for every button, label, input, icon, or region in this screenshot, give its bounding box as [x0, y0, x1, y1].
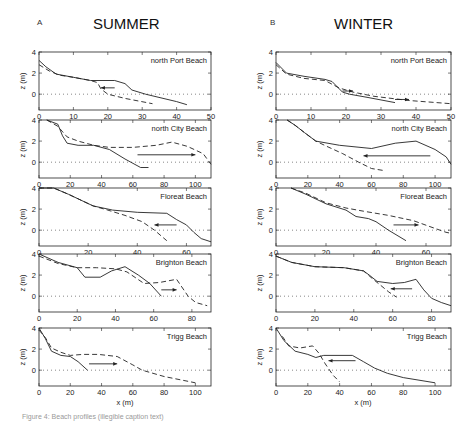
beach-name-label: Floreat Beach	[160, 192, 207, 201]
x-tick-label: 60	[388, 314, 396, 323]
x-tick-label: 100	[429, 388, 442, 397]
x-tick-label: 80	[160, 388, 168, 397]
x-tick-label: 20	[311, 314, 319, 323]
y-tick-label: 0	[32, 90, 36, 99]
y-axis-label: z (m)	[255, 140, 264, 158]
beach-name-label: north City Beach	[392, 124, 447, 133]
y-axis-label: z (m)	[18, 274, 27, 292]
y-tick-label: 2	[32, 137, 36, 146]
x-tick-label: 0	[274, 388, 278, 397]
subplot-summer-north-port-beach: 02401020304050z (m)north Port Beach	[18, 48, 215, 122]
y-tick-label: 4	[32, 116, 36, 125]
beach-name-label: north Port Beach	[151, 56, 207, 65]
x-tick-label: 0	[274, 314, 278, 323]
y-tick-label: 4	[32, 250, 36, 259]
y-tick-label: 2	[32, 345, 36, 354]
subplot-winter-brighton-beach: 024020406080z (m)Brighton Beach	[255, 250, 451, 324]
y-tick-label: 2	[32, 69, 36, 78]
x-tick-label: 20	[73, 314, 81, 323]
y-tick-label: 4	[269, 116, 273, 125]
x-tick-label: 40	[350, 314, 358, 323]
beach-name-label: Trigg Beach	[167, 332, 207, 341]
beach-name-label: Brighton Beach	[156, 258, 207, 267]
y-axis-label: z (m)	[255, 348, 264, 366]
panel-letter-b: B	[270, 18, 275, 27]
x-tick-label: 0	[37, 314, 41, 323]
beach-name-label: Floreat Beach	[400, 192, 447, 201]
x-tick-label: 100	[189, 388, 202, 397]
y-tick-label: 2	[32, 271, 36, 280]
y-axis-label: z (m)	[255, 208, 264, 226]
y-axis-label: z (m)	[255, 274, 264, 292]
x-tick-label: 40	[97, 388, 105, 397]
y-axis-label: z (m)	[18, 348, 27, 366]
x-tick-label: 0	[37, 388, 41, 397]
summer-title: SUMMER	[93, 15, 160, 32]
x-tick-label: 80	[399, 388, 407, 397]
y-tick-label: 0	[269, 226, 273, 235]
y-tick-label: 2	[269, 205, 273, 214]
x-tick-label: 80	[427, 314, 435, 323]
y-tick-label: 0	[269, 90, 273, 99]
x-tick-label: 20	[66, 388, 74, 397]
y-tick-label: 0	[32, 158, 36, 167]
y-axis-label: z (m)	[18, 72, 27, 90]
x-axis-label-left: x (m)	[116, 398, 134, 407]
subplot-winter-north-port-beach: 02401020304050z (m)north Port Beach	[255, 48, 455, 122]
y-tick-label: 4	[269, 324, 273, 333]
subplot-winter-north-city-beach: 024020406080100z (m)north City Beach	[255, 116, 451, 190]
beach-name-label: north City Beach	[152, 124, 207, 133]
y-tick-label: 0	[269, 292, 273, 301]
beach-name-label: Trigg Beach	[407, 332, 447, 341]
y-tick-label: 2	[32, 205, 36, 214]
subplot-winter-trigg-beach: 024020406080100z (m)Trigg Beach	[255, 324, 451, 398]
subplot-summer-north-city-beach: 024020406080100z (m)north City Beach	[18, 116, 211, 190]
x-tick-label: 60	[367, 388, 375, 397]
y-tick-label: 2	[269, 271, 273, 280]
y-axis-label: z (m)	[255, 72, 264, 90]
y-tick-label: 4	[32, 184, 36, 193]
subplot-summer-brighton-beach: 024020406080z (m)Brighton Beach	[18, 250, 211, 324]
x-tick-label: 80	[188, 314, 196, 323]
y-tick-label: 4	[269, 250, 273, 259]
y-tick-label: 4	[32, 48, 36, 57]
figure-caption: Figure 4: Beach profiles (illegible capt…	[22, 413, 164, 421]
winter-title: WINTER	[334, 15, 393, 32]
y-axis-label: z (m)	[18, 208, 27, 226]
y-tick-label: 4	[269, 48, 273, 57]
x-tick-label: 20	[304, 388, 312, 397]
y-tick-label: 0	[32, 226, 36, 235]
x-axis-label-right: x (m)	[354, 398, 372, 407]
x-tick-label: 40	[335, 388, 343, 397]
figure-canvas: A SUMMER B WINTER 02401020304050z (m)nor…	[0, 0, 470, 423]
y-tick-label: 2	[269, 69, 273, 78]
subplot-grid: 02401020304050z (m)north Port Beach02401…	[18, 48, 455, 398]
beach-name-label: Brighton Beach	[396, 258, 447, 267]
x-tick-label: 60	[149, 314, 157, 323]
subplot-winter-floreat-beach: 0240204060z (m)Floreat Beach	[255, 184, 451, 258]
y-tick-label: 0	[269, 158, 273, 167]
beach-name-label: north Port Beach	[391, 56, 447, 65]
x-tick-label: 40	[111, 314, 119, 323]
y-tick-label: 0	[269, 366, 273, 375]
panel-letter-a: A	[37, 18, 43, 27]
y-tick-label: 2	[269, 345, 273, 354]
subplot-summer-floreat-beach: 0240204060z (m)Floreat Beach	[18, 184, 211, 258]
y-axis-label: z (m)	[18, 140, 27, 158]
y-tick-label: 0	[32, 292, 36, 301]
y-tick-label: 2	[269, 137, 273, 146]
subplot-summer-trigg-beach: 024020406080100z (m)Trigg Beach	[18, 324, 211, 398]
y-tick-label: 4	[32, 324, 36, 333]
x-tick-label: 60	[129, 388, 137, 397]
y-tick-label: 4	[269, 184, 273, 193]
y-tick-label: 0	[32, 366, 36, 375]
